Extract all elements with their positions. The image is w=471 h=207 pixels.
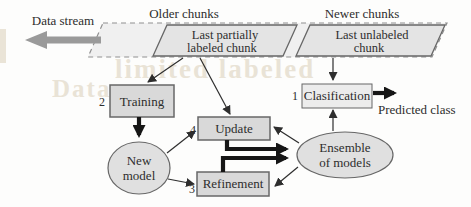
diagram-canvas: limited labeled Data Data stream Older c… xyxy=(0,0,471,207)
new-model-label-line1: New xyxy=(127,153,152,168)
ensemble-label-line2: of models xyxy=(319,155,371,170)
arrow-new-model-to-update xyxy=(167,131,195,153)
last-unlabeled-chunk-label-line1: Last unlabeled xyxy=(335,28,409,42)
bleed-through-mark xyxy=(0,29,6,63)
clasification-label: Clasification xyxy=(304,88,371,103)
predicted-class-label: Predicted class xyxy=(378,102,456,117)
arrow-ensemble-to-update xyxy=(274,127,299,143)
ensemble-stream-diagram: limited labeled Data Data stream Older c… xyxy=(0,0,471,207)
data-stream-arrow-icon xyxy=(25,31,101,49)
data-stream-label: Data stream xyxy=(32,13,94,28)
training-step-number: 2 xyxy=(99,95,105,109)
refinement-label: Refinement xyxy=(203,176,264,191)
update-label: Update xyxy=(215,121,253,136)
last-partially-labeled-chunk-label-line2: labeled chunk xyxy=(187,41,258,55)
training-label: Training xyxy=(120,94,165,109)
newer-chunks-label: Newer chunks xyxy=(325,6,400,21)
older-chunks-label: Older chunks xyxy=(149,6,219,21)
ensemble-label-line1: Ensemble xyxy=(319,140,370,155)
new-model-label-line2: model xyxy=(123,168,156,183)
arrow-ensemble-to-refinement xyxy=(275,167,298,186)
bleed-through-text: limited labeled xyxy=(115,54,315,84)
last-unlabeled-chunk-label-line2: chunk xyxy=(354,41,385,55)
arrow-refinement-to-ensemble xyxy=(223,158,286,172)
last-partially-labeled-chunk-label-line1: Last partially xyxy=(192,28,259,42)
arrow-update-to-ensemble xyxy=(227,140,286,149)
clasification-step-number: 1 xyxy=(292,89,298,103)
